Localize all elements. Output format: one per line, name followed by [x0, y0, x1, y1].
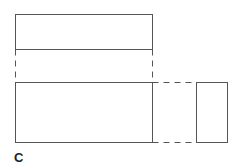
top-rectangle [16, 15, 153, 50]
side-rectangle [197, 83, 228, 143]
figure-label: C [14, 150, 24, 165]
orthographic-projection-diagram: C [0, 0, 240, 168]
bottom-rectangle [16, 83, 153, 143]
